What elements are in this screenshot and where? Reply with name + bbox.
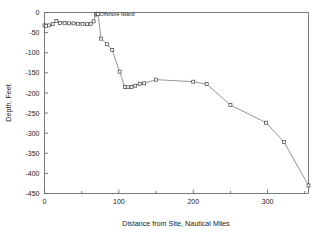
x-tick-label: 200 — [187, 198, 199, 205]
y-tick-label: -400 — [25, 170, 39, 177]
data-point-marker — [282, 141, 285, 144]
data-point-marker — [192, 80, 195, 83]
data-point-marker — [59, 21, 62, 24]
data-point-marker — [92, 20, 95, 23]
y-tick-label: -100 — [25, 49, 39, 56]
y-tick-label: -350 — [25, 150, 39, 157]
data-point-marker — [123, 85, 126, 88]
data-point-marker — [143, 82, 146, 85]
data-point-marker — [55, 19, 58, 22]
data-point-marker — [47, 24, 50, 27]
x-tick-label: 100 — [113, 198, 125, 205]
data-point-marker — [51, 23, 54, 26]
y-tick-label: -200 — [25, 90, 39, 97]
data-point-marker — [63, 21, 66, 24]
data-point-marker — [85, 23, 88, 26]
x-axis-ticks: 0100200300 — [43, 190, 274, 205]
data-point-marker — [100, 37, 103, 40]
x-axis-title: Distance from Site, Nautical Miles — [122, 219, 230, 228]
data-point-marker — [126, 86, 129, 89]
data-point-marker — [134, 84, 137, 87]
data-point-marker — [105, 43, 108, 46]
x-tick-label: 300 — [262, 198, 274, 205]
data-point-marker — [68, 22, 71, 25]
annotation-offshore-island: Offshore Island — [100, 11, 135, 17]
y-tick-label: -300 — [25, 130, 39, 137]
data-point-marker — [130, 85, 133, 88]
y-tick-label: -450 — [25, 190, 39, 197]
data-point-marker — [205, 83, 208, 86]
y-tick-label: -50 — [29, 29, 39, 36]
data-point-marker — [72, 22, 75, 25]
y-tick-label: -150 — [25, 69, 39, 76]
data-point-marker — [111, 48, 114, 51]
data-point-marker — [265, 121, 268, 124]
data-point-marker — [155, 78, 158, 81]
y-tick-label: -250 — [25, 110, 39, 117]
data-point-marker — [81, 22, 84, 25]
x-tick-label: 0 — [43, 198, 47, 205]
data-point-marker — [307, 184, 310, 187]
chart-figure: 0-50-100-150-200-250-300-350-400-450 010… — [0, 0, 318, 234]
chart-annotations: Offshore Island — [100, 11, 135, 17]
data-point-marker — [44, 24, 47, 27]
data-point-marker — [229, 104, 232, 107]
data-point-markers — [43, 12, 310, 187]
y-tick-label: 0 — [36, 9, 40, 16]
profile-line — [45, 14, 309, 186]
plot-frame — [45, 13, 309, 194]
data-point-marker — [89, 22, 92, 25]
bathymetry-line-chart: 0-50-100-150-200-250-300-350-400-450 010… — [0, 0, 318, 234]
data-point-marker — [138, 82, 141, 85]
data-point-marker — [76, 22, 79, 25]
y-axis-title: Depth, Feet — [4, 84, 13, 122]
data-series-group — [43, 12, 310, 187]
data-point-marker — [118, 70, 121, 73]
